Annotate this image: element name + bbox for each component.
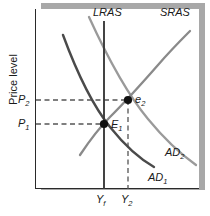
point-e1-marker: [100, 120, 108, 128]
label-ad1-sub: 1: [163, 177, 167, 186]
plot-canvas: [36, 9, 200, 189]
y-tick-p2-sub: 2: [25, 99, 29, 108]
label-e2-sub: 2: [141, 99, 145, 108]
x-tick-y2-sub: 2: [128, 199, 132, 208]
label-sras: SRAS: [160, 7, 190, 18]
label-ad1: AD1: [148, 172, 167, 186]
x-tick-yf: Yf: [96, 194, 105, 208]
curve-ad2: [89, 17, 196, 165]
label-ad2: AD2: [165, 147, 184, 161]
y-tick-p1-sub: 1: [25, 123, 29, 132]
point-e2-marker: [124, 96, 132, 104]
y-tick-p1: P1: [18, 118, 30, 132]
label-e1-sub: 1: [118, 124, 122, 133]
label-ad2-text: AD: [165, 146, 180, 158]
x-tick-y2: Y2: [121, 194, 133, 208]
ad-as-figure: LRAS SRAS AD2 AD1 E1 e2 Price level P2 P…: [0, 0, 210, 216]
y-axis-title: Price level: [8, 37, 19, 123]
label-e2: e2: [135, 94, 145, 108]
label-ad2-sub: 2: [180, 152, 184, 161]
label-lras: LRAS: [93, 7, 122, 18]
y-tick-p2: P2: [18, 94, 30, 108]
x-tick-yf-sub: f: [103, 199, 105, 208]
label-ad1-text: AD: [148, 171, 163, 183]
label-e1: E1: [111, 119, 123, 133]
plot-frame: LRAS SRAS AD2 AD1 E1 e2: [35, 9, 199, 189]
